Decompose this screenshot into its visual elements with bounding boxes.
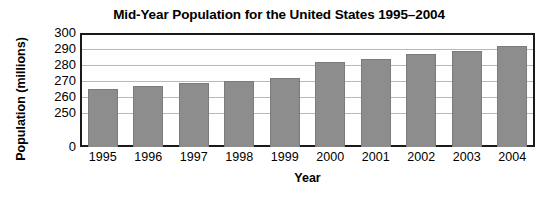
y-tick-label: 280 [34,58,76,71]
x-tick-label: 2000 [308,150,354,165]
bar-chart-figure: Mid-Year Population for the United State… [0,0,558,202]
y-tick-label: 260 [34,90,76,103]
gridline [82,81,533,82]
gridline [82,49,533,50]
y-tick-label: 290 [34,42,76,55]
x-tick-label: 2002 [399,150,445,165]
y-tick-label: 0 [34,140,76,153]
chart-title: Mid-Year Population for the United State… [0,7,558,22]
x-tick-label: 2004 [490,150,536,165]
x-tick-label: 1997 [171,150,217,165]
x-tick-label: 2001 [353,150,399,165]
x-tick-label: 1996 [126,150,172,165]
y-tick-label: 300 [34,26,76,39]
x-axis-tick-labels: 1995199619971998199920002001200220032004 [80,150,535,168]
y-axis-title: Population (millions) [14,37,28,161]
x-tick-label: 1995 [80,150,126,165]
gridline [82,113,533,114]
y-axis-tick-labels: 3002902802702602500 [34,0,76,202]
gridline [82,97,533,98]
x-axis-title: Year [80,171,535,185]
x-tick-label: 1999 [262,150,308,165]
plot-area [80,33,535,147]
y-tick-label: 270 [34,74,76,87]
x-tick-label: 1998 [217,150,263,165]
x-tick-label: 2003 [444,150,490,165]
gridline [82,65,533,66]
y-tick-label: 250 [34,106,76,119]
